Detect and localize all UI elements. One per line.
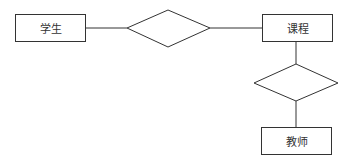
relationship-diamond-2 <box>254 64 338 101</box>
relationship-diamond-1 <box>127 10 210 47</box>
entity-student-label: 学生 <box>15 14 86 42</box>
entity-teacher-label: 教师 <box>261 127 332 155</box>
entity-course-label: 课程 <box>262 14 333 42</box>
